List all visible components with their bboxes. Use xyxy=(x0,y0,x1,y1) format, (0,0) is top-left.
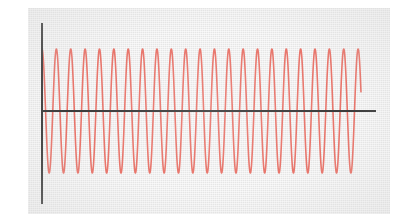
figure-root xyxy=(0,0,408,224)
plot-panel xyxy=(28,8,390,214)
sine-wave-plot xyxy=(28,8,390,214)
